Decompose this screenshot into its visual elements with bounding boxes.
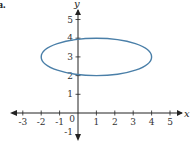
y-tick-label: -1 — [64, 127, 73, 137]
ellipse-curve — [41, 38, 151, 75]
y-tick-label: 3 — [67, 52, 73, 62]
y-tick-label: 2 — [67, 71, 73, 81]
x-tick-label: -3 — [18, 117, 27, 127]
y-tick-label: 4 — [67, 33, 73, 43]
x-tick-label: -1 — [55, 117, 64, 127]
y-tick-label: 5 — [67, 15, 73, 25]
part-label: a. — [0, 0, 6, 10]
x-tick-label: 5 — [167, 117, 173, 127]
x-tick-label: 0 — [69, 114, 75, 124]
x-tick-label: -2 — [37, 117, 46, 127]
coordinate-plane: a. -3-2-1012345 -112345 x y — [0, 0, 190, 141]
x-tick-label: 1 — [94, 117, 100, 127]
x-axis-left-arrow-icon — [10, 110, 17, 116]
x-tick-label: 4 — [149, 117, 155, 127]
x-tick-label: 2 — [112, 117, 118, 127]
x-axis-label: x — [184, 108, 190, 119]
y-axis-label: y — [73, 0, 80, 9]
y-axis-down-arrow-icon — [75, 134, 81, 141]
x-tick-label: 3 — [130, 117, 136, 127]
y-tick-label: 1 — [67, 89, 73, 99]
